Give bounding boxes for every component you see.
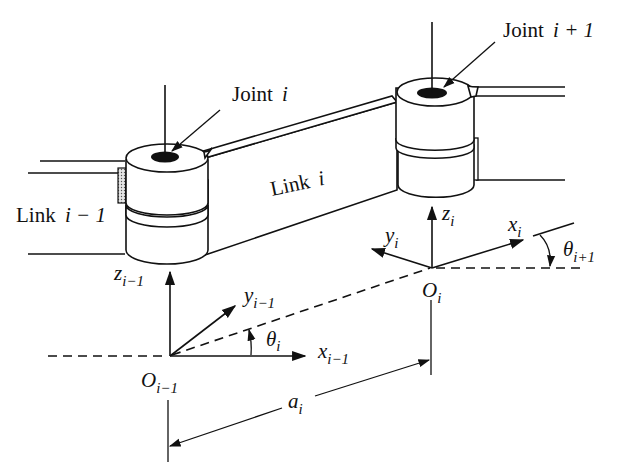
o-i-label: Oi — [422, 278, 441, 306]
z-i-label: zi — [441, 201, 454, 229]
z-prev-label: zi−1 — [113, 261, 144, 289]
dh-diagram: Joint i Joint i + 1 Link i Link i − 1 zi… — [0, 0, 623, 467]
theta-i-plus-1-label: θi+1 — [563, 237, 595, 265]
joint-i-plus-1-cylinder — [396, 78, 478, 197]
theta-i-plus-1-angle-arc — [540, 235, 550, 266]
x-i-axis-arrow — [432, 240, 523, 268]
joint-i-pointer-arrow — [172, 110, 220, 151]
a-i-dimension — [168, 300, 431, 462]
joint-i-plus-1-label: Joint i + 1 — [503, 18, 594, 42]
link-i-plus-1 — [460, 87, 565, 180]
theta-i-label: θi — [266, 327, 281, 354]
o-prev-label: Oi−1 — [141, 368, 178, 396]
x-prev-label: xi−1 — [317, 339, 349, 367]
frame-i-minus-1 — [48, 268, 430, 356]
theta-i-angle-arc — [249, 330, 251, 355]
joint-i-cylinder — [126, 144, 212, 264]
y-prev-label: yi−1 — [242, 283, 275, 311]
x-i-label: xi — [507, 212, 522, 240]
link-i-minus-1-label: Link i − 1 — [16, 203, 106, 227]
common-normal-dashed — [172, 268, 430, 355]
joint-i-label: Joint i — [232, 82, 288, 106]
y-i-label: yi — [383, 223, 399, 251]
a-i-label: ai — [288, 389, 303, 417]
link-i-minus-1-hatch — [118, 168, 126, 203]
a-i-arrow-left — [170, 408, 282, 446]
y-prev-axis-arrow — [170, 306, 235, 356]
x-i-axis-extension — [533, 223, 574, 236]
y-i-axis-arrow — [372, 249, 432, 268]
joint-i-plus-1-pointer-arrow — [444, 42, 495, 87]
frame-i — [372, 207, 582, 268]
